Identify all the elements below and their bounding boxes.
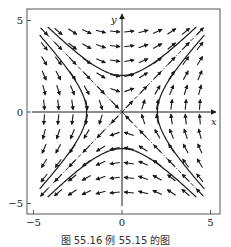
y-tick-label: 5 <box>17 15 23 26</box>
axis-ticks: −505−505 <box>8 15 213 228</box>
y-tick-label: −5 <box>8 198 23 209</box>
x-tick-label: −5 <box>26 217 41 228</box>
figure-caption: 图 55.16 例 55.15 的图 <box>0 232 231 247</box>
x-tick-label: 5 <box>207 217 213 228</box>
y-tick-label: 0 <box>17 107 23 118</box>
phase-portrait: −505−505 x y <box>0 0 231 232</box>
x-tick-label: 0 <box>119 217 125 228</box>
y-axis-label: y <box>110 14 117 25</box>
x-axis-label: x <box>211 116 217 127</box>
